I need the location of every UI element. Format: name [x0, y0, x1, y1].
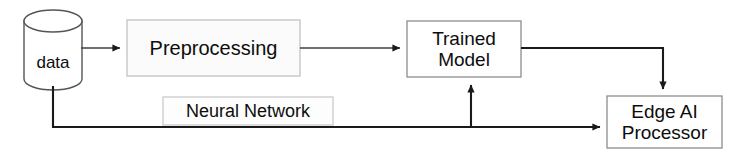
- node-edge-ai-processor-box: [607, 96, 722, 148]
- diagram-canvas: data Preprocessing Trained Model Edge AI…: [0, 0, 738, 159]
- diagram-graphics: [0, 0, 738, 159]
- node-preprocessing-box: [127, 20, 300, 76]
- node-data-cylinder: [24, 10, 82, 90]
- node-neural-network-box: [163, 97, 333, 125]
- node-trained-model-box: [407, 21, 521, 77]
- edge-trained-model-to-edge-ai: [521, 48, 663, 89]
